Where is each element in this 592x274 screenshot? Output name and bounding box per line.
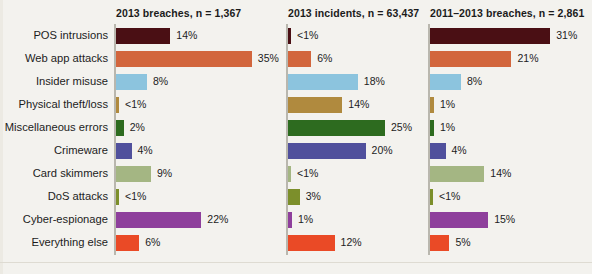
- bar-dos-attacks: [430, 189, 433, 205]
- bar-value-physical-theft-loss: 1%: [440, 93, 455, 116]
- bar-value-card-skimmers: 9%: [157, 162, 172, 185]
- bar-row: 22%: [114, 208, 286, 231]
- bar-row: 18%: [286, 70, 428, 93]
- bar-row: 3%: [286, 185, 428, 208]
- bar-dos-attacks: [116, 189, 119, 205]
- bar-card-skimmers: [116, 166, 151, 182]
- bar-value-cyber-espionage: 22%: [207, 208, 228, 231]
- bar-row: 8%: [114, 70, 286, 93]
- bar-row: 21%: [428, 47, 592, 70]
- category-label-web-app-attacks: Web app attacks: [0, 47, 112, 70]
- bar-value-card-skimmers: 14%: [490, 162, 511, 185]
- panel-2013-breaches: 14%35%8%<1%2%4%9%<1%22%6%: [114, 24, 286, 262]
- bar-value-dos-attacks: <1%: [439, 185, 460, 208]
- bar-value-dos-attacks: 3%: [306, 185, 321, 208]
- bar-value-everything-else: 6%: [145, 231, 160, 254]
- bar-row: <1%: [428, 185, 592, 208]
- bar-miscellaneous-errors: [116, 120, 124, 136]
- bar-value-miscellaneous-errors: 1%: [440, 116, 455, 139]
- category-label-insider-misuse: Insider misuse: [0, 70, 112, 93]
- category-label-everything-else: Everything else: [0, 231, 112, 254]
- bar-value-physical-theft-loss: 14%: [348, 93, 369, 116]
- bar-row: 6%: [286, 47, 428, 70]
- bar-insider-misuse: [288, 74, 358, 90]
- category-label-cyber-espionage: Cyber-espionage: [0, 208, 112, 231]
- bar-value-cyber-espionage: 15%: [494, 208, 515, 231]
- bar-crimeware: [430, 143, 446, 159]
- bar-physical-theft-loss: [288, 97, 342, 113]
- bar-pos-intrusions: [288, 28, 291, 44]
- category-label-card-skimmers: Card skimmers: [0, 162, 112, 185]
- category-label-dos-attacks: DoS attacks: [0, 185, 112, 208]
- bar-pos-intrusions: [430, 28, 550, 44]
- bar-value-crimeware: 20%: [372, 139, 393, 162]
- bar-everything-else: [430, 235, 449, 251]
- bar-cyber-espionage: [288, 212, 292, 228]
- bar-value-crimeware: 4%: [452, 139, 467, 162]
- bar-card-skimmers: [288, 166, 291, 182]
- category-label-crimeware: Crimeware: [0, 139, 112, 162]
- bar-physical-theft-loss: [430, 97, 434, 113]
- bar-insider-misuse: [116, 74, 147, 90]
- bar-card-skimmers: [430, 166, 484, 182]
- bar-value-pos-intrusions: <1%: [297, 24, 318, 47]
- bar-row: 25%: [286, 116, 428, 139]
- bar-row: <1%: [286, 162, 428, 185]
- bar-row: 35%: [114, 47, 286, 70]
- bar-value-crimeware: 4%: [138, 139, 153, 162]
- category-label-pos-intrusions: POS intrusions: [0, 24, 112, 47]
- bar-row: 14%: [428, 162, 592, 185]
- bar-row: 20%: [286, 139, 428, 162]
- bar-row: 9%: [114, 162, 286, 185]
- bar-row: 6%: [114, 231, 286, 254]
- bar-value-insider-misuse: 18%: [364, 70, 385, 93]
- bar-value-miscellaneous-errors: 25%: [391, 116, 412, 139]
- bar-value-miscellaneous-errors: 2%: [130, 116, 145, 139]
- bar-row: <1%: [286, 24, 428, 47]
- bar-value-physical-theft-loss: <1%: [125, 93, 146, 116]
- panel-title-2013-incidents: 2013 incidents, n = 63,437: [288, 7, 419, 19]
- panel-2011-2013-breaches: 31%21%8%1%1%4%14%<1%15%5%: [428, 24, 592, 262]
- bar-row: 14%: [114, 24, 286, 47]
- bar-row: 12%: [286, 231, 428, 254]
- category-label-column: POS intrusions Web app attacks Insider m…: [0, 24, 112, 254]
- bar-cyber-espionage: [430, 212, 488, 228]
- bar-value-cyber-espionage: 1%: [298, 208, 313, 231]
- bar-miscellaneous-errors: [430, 120, 434, 136]
- bar-row: 1%: [286, 208, 428, 231]
- bar-value-web-app-attacks: 21%: [517, 47, 538, 70]
- bar-row: 1%: [428, 116, 592, 139]
- bar-physical-theft-loss: [116, 97, 119, 113]
- bar-insider-misuse: [430, 74, 461, 90]
- bar-value-web-app-attacks: 35%: [258, 47, 279, 70]
- bar-web-app-attacks: [288, 51, 311, 67]
- bar-row: 8%: [428, 70, 592, 93]
- bar-web-app-attacks: [116, 51, 252, 67]
- bar-web-app-attacks: [430, 51, 511, 67]
- bar-value-insider-misuse: 8%: [467, 70, 482, 93]
- category-label-physical-theft-loss: Physical theft/loss: [0, 93, 112, 116]
- bar-value-everything-else: 5%: [455, 231, 470, 254]
- bar-row: 4%: [428, 139, 592, 162]
- bar-row: 31%: [428, 24, 592, 47]
- bar-value-insider-misuse: 8%: [153, 70, 168, 93]
- bar-row: 5%: [428, 231, 592, 254]
- bar-value-web-app-attacks: 6%: [317, 47, 332, 70]
- chart-baseline: [0, 262, 592, 263]
- bar-row: <1%: [114, 185, 286, 208]
- category-label-miscellaneous-errors: Miscellaneous errors: [0, 116, 112, 139]
- bar-value-card-skimmers: <1%: [297, 162, 318, 185]
- bar-cyber-espionage: [116, 212, 201, 228]
- panel-title-2013-breaches: 2013 breaches, n = 1,367: [116, 7, 241, 19]
- bar-miscellaneous-errors: [288, 120, 385, 136]
- bar-value-everything-else: 12%: [341, 231, 362, 254]
- bar-crimeware: [288, 143, 366, 159]
- bar-value-pos-intrusions: 31%: [556, 24, 577, 47]
- panel-title-2011-2013-breaches: 2011–2013 breaches, n = 2,861: [430, 7, 584, 19]
- bar-row: 14%: [286, 93, 428, 116]
- bar-row: 2%: [114, 116, 286, 139]
- bar-value-dos-attacks: <1%: [125, 185, 146, 208]
- bar-everything-else: [116, 235, 139, 251]
- breach-patterns-chart: 2013 breaches, n = 1,367 2013 incidents,…: [0, 0, 592, 274]
- bar-crimeware: [116, 143, 132, 159]
